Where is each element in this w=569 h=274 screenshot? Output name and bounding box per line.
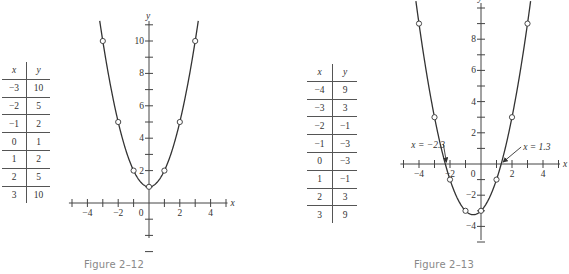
data-point-marker [447,177,452,182]
graph-fig-2-13: xy−4−2024−4−22468x = −2.3x = 1.3 [400,0,568,242]
data-point-marker [131,168,136,173]
y-tick-label: 4 [139,133,144,143]
graph-fig-2-12: xy−4−2024246810 [69,11,236,252]
x-tick-label: −4 [414,169,424,179]
data-point-marker [478,208,483,213]
y-axis-label: y [477,0,483,3]
data-point-marker [463,208,468,213]
figure-caption-2-12: Figure 2–12 [84,259,144,270]
data-point-marker [177,119,182,124]
data-point-marker [146,184,151,189]
y-tick-label: 2 [471,128,476,138]
y-tick-label: −4 [466,221,476,231]
data-point-marker [509,115,514,120]
data-point-marker [494,177,499,182]
x-tick-label: 2 [510,169,515,179]
x-tick-label: −2 [113,208,123,218]
parabola-curve [416,1,531,215]
x-axis-label: x [562,159,568,169]
y-tick-label: 8 [139,68,144,78]
y-tick-label: 4 [471,97,476,107]
arrow-icon [503,147,521,162]
data-point-marker [100,38,105,43]
annotation-root-left: x = −2.3 [410,140,445,150]
data-point-marker [432,115,437,120]
x-tick-label: 0 [139,208,144,218]
y-tick-label: −2 [466,190,476,200]
annotation-root-right: x = 1.3 [522,142,551,152]
data-point-marker [193,38,198,43]
x-tick-label: −4 [82,208,92,218]
x-tick-label: 4 [541,169,546,179]
y-tick-label: 6 [139,101,144,111]
y-tick-label: 10 [135,36,145,46]
x-axis-label: x [230,198,236,208]
figure-caption-2-13: Figure 2–13 [414,259,474,270]
y-tick-label: 6 [471,65,476,75]
data-point-marker [416,21,421,26]
y-tick-label: 8 [471,34,476,44]
x-tick-label: 4 [208,208,213,218]
y-axis-label: y [145,11,151,21]
graphs-canvas: xy−4−2024246810 xy−4−2024−4−22468x = −2.… [0,0,569,274]
data-point-marker [525,21,530,26]
x-tick-label: 2 [177,208,182,218]
y-tick-label: 2 [139,166,144,176]
data-point-marker [162,168,167,173]
data-point-marker [116,119,121,124]
x-tick-label: 0 [471,169,476,179]
